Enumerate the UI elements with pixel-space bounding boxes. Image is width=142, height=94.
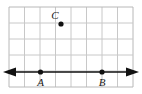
point-b-dot — [99, 69, 104, 74]
point-a-label: A — [36, 76, 44, 88]
point-c-label: C — [51, 9, 59, 21]
figure-canvas: C A B — [0, 0, 142, 94]
grid-vertical-lines — [9, 7, 133, 87]
point-a-dot — [38, 69, 43, 74]
point-c-dot — [58, 21, 63, 26]
geometry-figure: C A B — [0, 0, 142, 94]
point-c: C — [51, 9, 63, 27]
point-b-label: B — [99, 76, 106, 88]
point-b: B — [99, 69, 106, 88]
